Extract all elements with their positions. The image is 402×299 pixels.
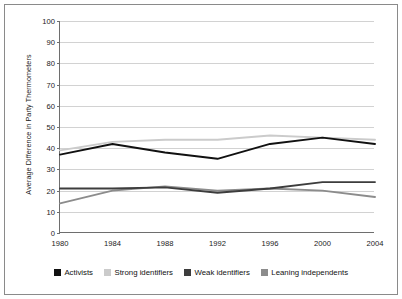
- x-tick-label: 1996: [262, 239, 279, 248]
- plot-region: 0102030405060708090100 19801984198819921…: [59, 21, 374, 233]
- y-tick-label: 80: [47, 59, 55, 68]
- legend-swatch-icon: [54, 269, 61, 276]
- x-tick-label: 1988: [157, 239, 174, 248]
- x-tick-label: 1992: [209, 239, 226, 248]
- x-tick-label: 2000: [314, 239, 331, 248]
- legend-swatch-icon: [184, 269, 191, 276]
- legend-swatch-icon: [261, 269, 268, 276]
- y-tick-label: 0: [51, 229, 55, 238]
- chart-figure: Average Difference in Party Thermometers…: [0, 0, 402, 299]
- legend-item: Activists: [54, 268, 93, 277]
- y-axis-title: Average Difference in Party Thermometers: [24, 25, 33, 225]
- y-tick-label: 30: [47, 165, 55, 174]
- y-tick-mark: [57, 233, 60, 234]
- plot-area: 0102030405060708090100 19801984198819921…: [59, 21, 374, 233]
- legend-item: Weak identifiers: [184, 268, 250, 277]
- legend-label: Activists: [64, 268, 93, 277]
- x-tick-label: 2004: [367, 239, 384, 248]
- y-tick-label: 60: [47, 101, 55, 110]
- legend-item: Strong identifiers: [104, 268, 173, 277]
- legend-swatch-icon: [104, 269, 111, 276]
- series-line: [60, 138, 375, 159]
- series-lines: [60, 21, 375, 233]
- chart-legend: ActivistsStrong identifiersWeak identifi…: [4, 268, 398, 277]
- legend-label: Strong identifiers: [115, 268, 174, 277]
- x-tick-label: 1984: [104, 239, 121, 248]
- y-tick-label: 40: [47, 144, 55, 153]
- y-tick-label: 10: [47, 207, 55, 216]
- x-tick-label: 1980: [52, 239, 69, 248]
- legend-label: Leaning independents: [271, 268, 348, 277]
- legend-item: Leaning independents: [261, 268, 348, 277]
- legend-label: Weak identifiers: [195, 268, 250, 277]
- y-tick-label: 20: [47, 186, 55, 195]
- y-tick-label: 100: [42, 17, 55, 26]
- y-tick-label: 50: [47, 123, 55, 132]
- y-tick-label: 90: [47, 38, 55, 47]
- y-tick-label: 70: [47, 80, 55, 89]
